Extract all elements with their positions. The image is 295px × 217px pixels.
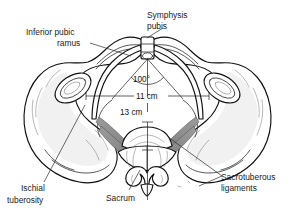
transverse-diameter-value: 13 cm xyxy=(120,108,142,117)
subpubic-angle-value: 100° xyxy=(133,75,150,84)
ischial-tuberosity-line2: tuberosity xyxy=(7,195,44,205)
label-sacrotuberous-ligaments: Sacrotuberous ligaments xyxy=(221,172,275,193)
symphysis-pubis-line2: pubis xyxy=(147,21,167,31)
inferior-pubic-ramus-line2: ramus xyxy=(57,38,80,48)
sacrotuberous-ligaments-line1: Sacrotuberous xyxy=(221,172,275,182)
ischial-tuberosity-line1: Ischial xyxy=(21,183,45,193)
pelvis-illustration: 100° 11 cm 13 cm Inferior pubic ramus Sy… xyxy=(0,0,295,217)
sacrum-line1: Sacrum xyxy=(106,193,135,203)
label-ischial-tuberosity: Ischial tuberosity xyxy=(7,183,45,205)
sacrum-bone xyxy=(118,127,176,196)
label-inferior-pubic-ramus: Inferior pubic ramus xyxy=(26,27,80,48)
inferior-pubic-ramus-line1: Inferior pubic xyxy=(26,27,74,37)
pelvis-figure: 100° 11 cm 13 cm Inferior pubic ramus Sy… xyxy=(0,0,295,217)
interspinous-diameter-value: 11 cm xyxy=(136,92,158,101)
label-symphysis-pubis: Symphysis pubis xyxy=(147,10,188,31)
sacrotuberous-ligaments-line2: ligaments xyxy=(221,183,257,193)
symphysis-pubis-line1: Symphysis xyxy=(147,10,188,20)
label-sacrum: Sacrum xyxy=(106,193,135,203)
symphysis-pubis-bone xyxy=(141,37,154,59)
